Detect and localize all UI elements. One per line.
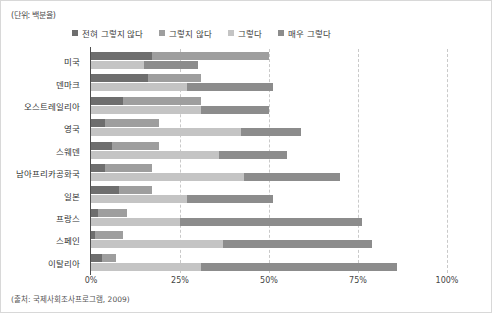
bar-group: [91, 251, 447, 273]
bar-segment: [187, 83, 272, 91]
bar-group: [91, 183, 447, 205]
x-axis-tick-label: 50%: [260, 276, 278, 285]
legend-swatch-icon: [228, 30, 234, 36]
legend-swatch-icon: [159, 30, 165, 36]
legend-swatch-icon: [278, 30, 284, 36]
bar-segment: [119, 186, 151, 194]
bar-segment: [144, 61, 197, 69]
x-axis-tick-label: 25%: [171, 276, 189, 285]
bar-segment: [91, 74, 148, 82]
bar-segment: [91, 240, 223, 248]
source-note: (출처: 국제사회조사프로그램, 2009): [11, 293, 130, 304]
unit-note: (단위: 백분율): [11, 9, 56, 20]
y-axis-tick-label: 남아프리카공화국: [16, 167, 80, 179]
y-axis-tick-label: 덴마크: [56, 78, 80, 90]
y-axis-tick-label: 스웨덴: [56, 145, 80, 157]
bar-segment: [223, 240, 373, 248]
bar-segment: [112, 142, 158, 150]
y-axis-tick-label: 일본: [64, 190, 80, 202]
bar-segment: [91, 173, 244, 181]
bar-segment: [102, 254, 116, 262]
legend-label: 그렇지 않다: [169, 27, 212, 39]
bar-segment: [91, 209, 98, 217]
x-axis-labels: 0%25%50%75%100%: [0, 276, 492, 290]
legend-label: 그렇다: [238, 27, 262, 39]
y-axis-labels: 미국덴마크오스트레일리아영국스웨덴남아프리카공화국일본프랑스스페인이탈리아: [0, 49, 86, 273]
gridline: [447, 49, 448, 273]
bar-segment: [201, 263, 397, 271]
legend-swatch-icon: [72, 30, 78, 36]
y-axis-tick-label: 스페인: [56, 234, 80, 246]
y-axis-tick-label: 미국: [64, 55, 80, 67]
bar-group: [91, 94, 447, 116]
bar-segment: [95, 231, 123, 239]
bar-group: [91, 228, 447, 250]
bar-segment: [123, 97, 201, 105]
bar-segment: [91, 164, 105, 172]
bar-segment: [91, 186, 119, 194]
bar-segment: [91, 61, 144, 69]
bar-segment: [91, 128, 241, 136]
bar-group: [91, 206, 447, 228]
bar-group: [91, 116, 447, 138]
bar-segment: [180, 218, 362, 226]
bar-segment: [91, 142, 112, 150]
legend-item: 전혀 그렇지 않다: [72, 27, 143, 39]
bar-segment: [91, 195, 187, 203]
bar-group: [91, 139, 447, 161]
bar-segment: [105, 164, 151, 172]
bar-segment: [201, 106, 269, 114]
bar-segment: [244, 173, 340, 181]
x-axis-tick-label: 100%: [436, 276, 459, 285]
bar-segment: [91, 151, 219, 159]
bar-segment: [91, 263, 201, 271]
bar-group: [91, 49, 447, 71]
bar-group: [91, 71, 447, 93]
bar-segment: [91, 83, 187, 91]
bar-segment: [91, 218, 180, 226]
bar-segment: [91, 97, 123, 105]
bar-segment: [105, 119, 158, 127]
bar-segment: [152, 52, 269, 60]
bar-segment: [148, 74, 201, 82]
bar-group: [91, 161, 447, 183]
y-axis-tick-label: 이탈리아: [48, 257, 80, 269]
bar-segment: [91, 106, 201, 114]
bar-segment: [98, 209, 126, 217]
x-axis-tick-label: 75%: [349, 276, 367, 285]
legend-item: 그렇다: [228, 27, 262, 39]
y-axis-tick-label: 프랑스: [56, 212, 80, 224]
bar-segment: [241, 128, 302, 136]
y-axis-tick-label: 오스트레일리아: [24, 100, 80, 112]
chart-legend: 전혀 그렇지 않다그렇지 않다그렇다매우 그렇다: [72, 27, 331, 39]
bar-segment: [91, 52, 152, 60]
legend-item: 그렇지 않다: [159, 27, 212, 39]
legend-item: 매우 그렇다: [278, 27, 331, 39]
legend-label: 전혀 그렇지 않다: [82, 27, 143, 39]
legend-label: 매우 그렇다: [288, 27, 331, 39]
bar-segment: [91, 119, 105, 127]
x-axis-tick-label: 0%: [85, 276, 98, 285]
bar-segment: [219, 151, 287, 159]
bar-segment: [187, 195, 272, 203]
bar-segment: [91, 254, 102, 262]
plot-area: [91, 49, 447, 273]
y-axis-tick-label: 영국: [64, 122, 80, 134]
